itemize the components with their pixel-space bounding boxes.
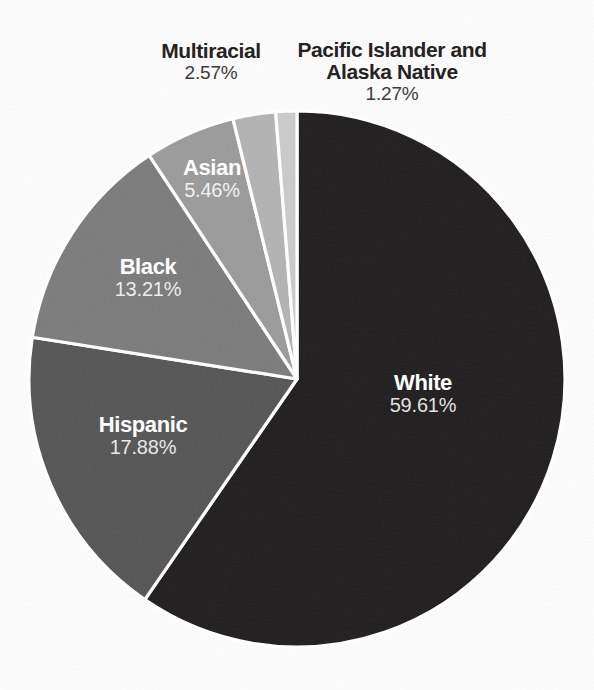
- pie-chart: [0, 0, 594, 690]
- grain-texture: [0, 0, 594, 690]
- pie-chart-figure: White59.61%Hispanic17.88%Black13.21%Asia…: [0, 0, 594, 690]
